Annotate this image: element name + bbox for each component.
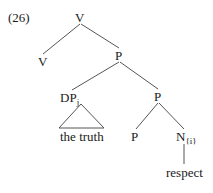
node-dp: DPj [60, 91, 79, 106]
node-p-mid: P [115, 49, 122, 62]
dp-content: the truth [60, 130, 104, 143]
node-root-v: V [75, 11, 84, 24]
dp-label: DP [60, 90, 77, 105]
node-p-low: P [131, 130, 138, 143]
node-p-right: P [154, 90, 161, 103]
n-content: respect [166, 166, 203, 179]
n-subscript: {i} [185, 136, 196, 146]
node-v-left: V [38, 55, 47, 68]
example-number: (26) [8, 11, 30, 24]
n-label: N [176, 129, 185, 144]
dp-subscript: j [77, 97, 80, 107]
node-n: N{i} [176, 130, 197, 145]
